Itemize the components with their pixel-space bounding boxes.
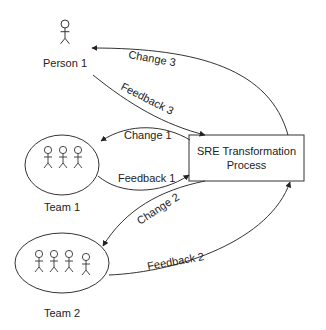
feedback-3-label: Feedback 3: [119, 80, 176, 117]
process-label-line-2: Process: [227, 159, 267, 171]
change-3-label: Change 3: [128, 48, 177, 68]
sre-transformation-diagram: Person 1 Team 1 Team 2 SRE Transformatio…: [0, 0, 326, 330]
team-1-people-icon: [44, 146, 82, 168]
team-2-label: Team 2: [44, 307, 80, 319]
process-box: [189, 135, 304, 181]
team-2-node: [15, 233, 109, 293]
process-label-line-1: SRE Transformation: [197, 145, 296, 157]
feedback-1-label: Feedback 1: [118, 172, 175, 184]
change-1-label: Change 1: [124, 129, 172, 141]
team-1-label: Team 1: [44, 201, 80, 213]
person-1-icon: [61, 20, 70, 44]
team-1-node: [25, 135, 99, 195]
person-1-label: Person 1: [43, 57, 87, 69]
feedback-2-label: Feedback 2: [146, 250, 205, 272]
team-2-people-icon: [35, 250, 90, 275]
